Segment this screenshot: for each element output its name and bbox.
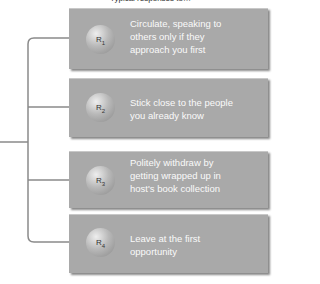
response-box-4: R4 Leave at the first opportunity bbox=[69, 214, 268, 273]
response-text-1: Circulate, speaking to others only if th… bbox=[130, 17, 240, 56]
response-text-2: Stick close to the people you already kn… bbox=[130, 96, 240, 122]
response-box-3: R3 Politely withdraw by getting wrapped … bbox=[69, 151, 268, 208]
r1-ball-icon: R1 bbox=[86, 25, 115, 54]
response-box-1: R1 Circulate, speaking to others only if… bbox=[69, 8, 268, 69]
r3-ball-icon: R3 bbox=[86, 166, 115, 195]
r4-ball-icon: R4 bbox=[86, 228, 115, 257]
response-box-2: R2 Stick close to the people you already… bbox=[69, 78, 268, 137]
r2-ball-icon: R2 bbox=[86, 93, 115, 122]
response-text-4: Leave at the first opportunity bbox=[130, 232, 210, 258]
response-text-3: Politely withdraw by getting wrapped up … bbox=[130, 156, 230, 195]
